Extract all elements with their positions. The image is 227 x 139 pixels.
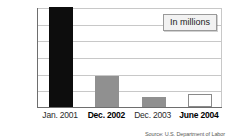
bar-jan-2001 [49,7,73,107]
legend-in-millions: In millions [163,14,217,31]
source-note: Source: U.S. Department of Labor [145,131,225,137]
x-tick-label: June 2004 [179,110,218,120]
chart-container: 14.0014.5015.0015.5016.0016.5017.00 Jan.… [0,0,227,139]
bar-dec-2002 [95,76,119,107]
bar-dec-2003 [142,97,166,107]
x-tick-label: Dec. 2003 [134,110,171,120]
x-axis-tick-labels: Jan. 2001Dec. 2002Dec. 2003June 2004 [37,110,222,123]
bar-june-2004 [188,94,212,107]
x-tick-label: Jan. 2001 [42,110,78,120]
x-tick-label: Dec. 2002 [88,110,125,120]
